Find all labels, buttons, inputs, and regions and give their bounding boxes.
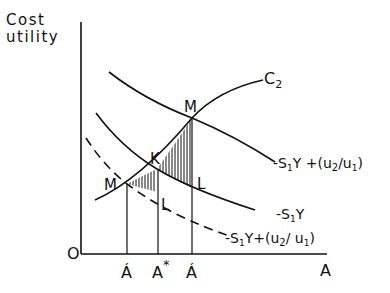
label-m-left: M <box>104 176 117 194</box>
tick-a-star: A* <box>152 257 170 282</box>
tick-a-prime-left: Á <box>121 263 132 282</box>
cost-utility-diagram: C2 M K M L L -S1Y +(u2/u1) -S1Y -S1Y+(u2… <box>0 0 390 293</box>
label-m-right: M <box>184 98 197 116</box>
hatched-region-right <box>160 110 190 195</box>
label-middle-curve: -S1Y <box>276 206 305 224</box>
label-c2: C2 <box>264 69 282 91</box>
label-k: K <box>150 150 161 168</box>
label-upper-curve: -S1Y +(u2/u1) <box>273 155 363 173</box>
label-l-left: L <box>161 196 170 214</box>
label-lower-curve: -S1Y+(u2/ u1) <box>225 230 315 248</box>
label-l-right: L <box>197 175 206 193</box>
label-origin: O <box>67 244 80 263</box>
tick-a-prime-right: Á <box>186 263 197 282</box>
label-x-axis: A <box>320 261 331 280</box>
